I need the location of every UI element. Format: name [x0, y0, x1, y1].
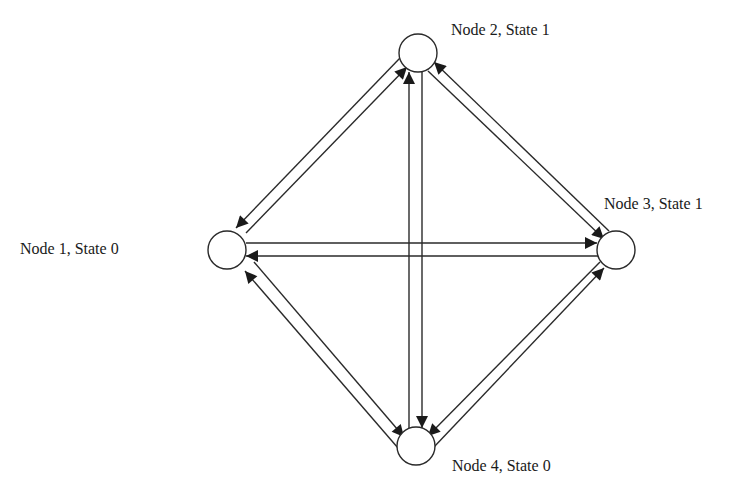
node-1-label: Node 1, State 0 [20, 241, 119, 257]
edge-n4-to-n1 [245, 271, 398, 448]
edge-n4-to-n3 [434, 268, 604, 447]
node-3-label: Node 3, State 1 [604, 196, 703, 212]
node-4-label: Node 4, State 0 [452, 458, 551, 474]
node-2-label: Node 2, State 1 [451, 22, 550, 38]
node-1-circle [208, 231, 246, 269]
edge-n3-to-n4 [428, 262, 600, 436]
node-3-circle [597, 231, 635, 269]
edge-n2-to-n1 [236, 58, 400, 228]
node-2-circle [399, 34, 437, 72]
edge-n2-to-n3 [428, 71, 604, 239]
edge-n3-to-n2 [434, 62, 609, 231]
edge-n1-to-n4 [254, 262, 404, 437]
edge-n1-to-n2 [246, 67, 407, 233]
node-4-circle [397, 427, 435, 465]
